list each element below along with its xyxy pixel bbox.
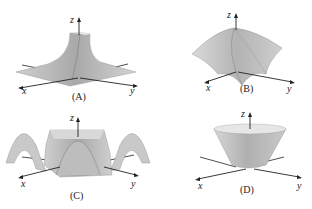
x-axis-label: x bbox=[21, 179, 25, 189]
panel-a: z x y (A) bbox=[0, 0, 156, 105]
z-axis-label: z bbox=[70, 113, 74, 123]
y-axis-label: y bbox=[131, 179, 135, 189]
x-axis-label: x bbox=[198, 181, 202, 191]
x-axis-label: x bbox=[206, 83, 210, 93]
panel-caption: (D) bbox=[240, 185, 254, 195]
panel-caption: (B) bbox=[240, 84, 253, 94]
panel-d: z x y (D) bbox=[156, 105, 312, 209]
x-axis-label: x bbox=[22, 86, 26, 96]
panel-b: z x y (B) bbox=[156, 0, 312, 105]
z-axis-label: z bbox=[70, 15, 74, 25]
panel-caption: (C) bbox=[70, 191, 83, 201]
y-axis-label: y bbox=[287, 84, 291, 94]
surface-d-graphic bbox=[156, 105, 312, 209]
y-axis-label: y bbox=[297, 181, 301, 191]
z-axis-label: z bbox=[227, 10, 231, 20]
panel-c: z x y (C) bbox=[0, 105, 156, 209]
panel-caption: (A) bbox=[72, 92, 86, 102]
z-axis-label: z bbox=[241, 109, 245, 119]
y-axis-label: y bbox=[130, 86, 134, 96]
